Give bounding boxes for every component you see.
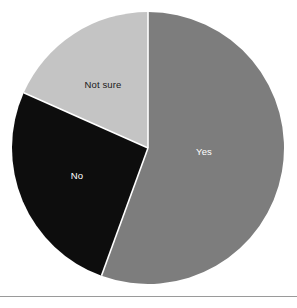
pie-chart-figure: Yes No Not sure <box>0 0 297 308</box>
pie-chart-svg: Yes No Not sure <box>0 0 297 308</box>
bottom-divider-rule <box>0 296 297 297</box>
